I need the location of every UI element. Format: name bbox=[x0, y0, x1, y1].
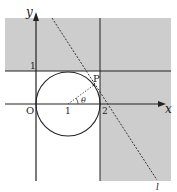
y-axis-arrow-icon bbox=[33, 12, 39, 21]
shaded-region bbox=[5, 18, 171, 181]
point-p-label: P bbox=[93, 73, 100, 84]
angle-arc bbox=[76, 98, 78, 104]
diagram-canvas: y x O 1 2 1 P θ l bbox=[0, 0, 177, 192]
x-axis-label: x bbox=[165, 102, 172, 116]
tick-x-2: 2 bbox=[102, 106, 108, 116]
tick-x-1: 1 bbox=[65, 106, 71, 116]
origin-label: O bbox=[26, 105, 34, 116]
angle-theta-label: θ bbox=[81, 96, 86, 105]
point-p bbox=[93, 84, 95, 86]
tick-y-1: 1 bbox=[30, 61, 36, 71]
line-l-label: l bbox=[156, 182, 159, 192]
y-axis-label: y bbox=[25, 5, 33, 19]
